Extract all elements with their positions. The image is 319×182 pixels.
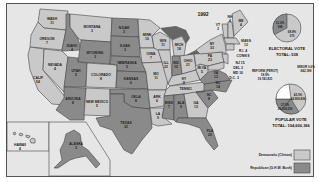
svg-text:TENN11: TENN11 <box>179 87 192 91</box>
popular-vote-pie: REFORM (PEROT) 18.9% 19,743,821 MINOR 0.… <box>252 65 315 128</box>
legend: Democratic (Clinton) Republican (G.H.W. … <box>250 150 310 173</box>
svg-text:19,743,821: 19,743,821 <box>257 77 272 81</box>
legend-republican-swatch <box>294 163 310 173</box>
state-ma[interactable] <box>224 38 240 44</box>
svg-text:ILL22: ILL22 <box>163 61 168 69</box>
legend-democratic-swatch <box>294 150 310 160</box>
svg-text:NJ 15: NJ 15 <box>235 61 244 65</box>
svg-text:MASS12: MASS12 <box>241 39 252 47</box>
svg-text:D.C. 3: D.C. 3 <box>229 76 239 80</box>
svg-text:DEL 3: DEL 3 <box>233 66 243 70</box>
election-map: 1992 <box>0 0 319 182</box>
svg-text:TOTAL: 538: TOTAL: 538 <box>276 52 299 57</box>
svg-text:R.I. 4: R.I. 4 <box>239 49 247 53</box>
state-vt[interactable] <box>222 24 228 38</box>
svg-text:842,189: 842,189 <box>301 69 312 73</box>
svg-text:CONN 8: CONN 8 <box>237 54 250 58</box>
svg-text:MD 10: MD 10 <box>233 71 243 75</box>
legend-republican-label: Republican (G.H.W. Bush) <box>250 166 292 170</box>
svg-text:VT3: VT3 <box>216 23 221 31</box>
svg-text:TOTAL: 104,600,366: TOTAL: 104,600,366 <box>272 123 310 128</box>
electoral-vote-pie: 31.2%168 68.8%370 ELECTORAL VOTE TOTAL: … <box>269 14 306 57</box>
svg-text:POPULAR VOTE: POPULAR VOTE <box>275 117 307 122</box>
legend-democratic-label: Democratic (Clinton) <box>259 153 292 157</box>
map-title: 1992 <box>197 11 208 17</box>
svg-text:39,104,550: 39,104,550 <box>277 107 292 111</box>
state-ct[interactable] <box>226 44 234 50</box>
svg-text:ELECTORAL VOTE: ELECTORAL VOTE <box>269 46 306 51</box>
svg-text:44,909,806: 44,909,806 <box>290 97 305 101</box>
